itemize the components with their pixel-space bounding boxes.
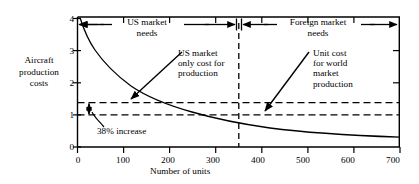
top-axis-ticks [124, 17, 354, 23]
bracket-foreign-market-needs [242, 19, 398, 31]
cost-curve [80, 19, 400, 138]
x-axis-ticks [78, 147, 401, 153]
plot-canvas [0, 0, 419, 184]
leader-us-market-only-cost [131, 52, 182, 99]
aircraft-production-cost-chart: Aircraft production costs 4 3 2 1 0 0 10… [0, 0, 419, 184]
bracket-us-market-needs [80, 19, 237, 31]
